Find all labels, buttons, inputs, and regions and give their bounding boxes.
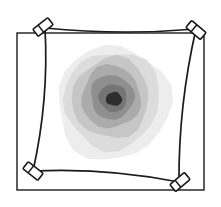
membrane-contour-figure: [0, 0, 221, 207]
figure-root: Clamped membrane with radial contour fie…: [0, 0, 221, 207]
